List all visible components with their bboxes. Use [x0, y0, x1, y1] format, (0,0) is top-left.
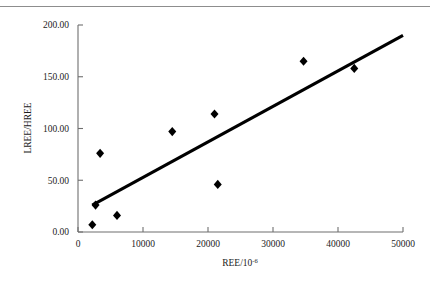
- y-tick-label: 0.00: [52, 227, 69, 237]
- x-axis-title-exponent: -6: [252, 257, 258, 264]
- x-tick-label: 40000: [326, 239, 350, 249]
- y-tick-label: 100.00: [43, 124, 69, 134]
- data-point-marker: [211, 109, 219, 118]
- y-axis-tick-labels: 0.0050.00100.00150.00200.00: [43, 20, 69, 237]
- y-tick-label: 50.00: [48, 176, 70, 186]
- chart-canvas: 0.0050.00100.00150.00200.00 010000200003…: [0, 0, 430, 285]
- y-axis-ticks: [78, 25, 83, 232]
- scatter-chart-figure: 0.0050.00100.00150.00200.00 010000200003…: [0, 0, 430, 285]
- trend-line: [92, 35, 403, 205]
- trend-line-segment: [92, 35, 403, 205]
- y-axis-title: LREE/HREE: [23, 102, 33, 153]
- data-point-marker: [214, 180, 222, 189]
- data-point-marker: [88, 220, 96, 229]
- x-axis-ticks: [78, 227, 403, 232]
- axis-spines: [78, 25, 403, 232]
- x-axis-tick-labels: 01000020000300004000050000: [76, 239, 416, 249]
- y-tick-label: 200.00: [43, 20, 69, 30]
- data-point-marker: [113, 211, 121, 220]
- y-tick-label: 150.00: [43, 72, 69, 82]
- x-tick-label: 50000: [391, 239, 415, 249]
- x-tick-label: 20000: [196, 239, 220, 249]
- x-tick-label: 10000: [131, 239, 155, 249]
- x-tick-label: 30000: [261, 239, 285, 249]
- x-axis-title: REE/10-6: [222, 257, 258, 268]
- x-axis-title-base: REE/10: [222, 258, 252, 268]
- data-point-marker: [168, 127, 176, 136]
- x-tick-label: 0: [76, 239, 81, 249]
- data-point-marker: [300, 57, 308, 66]
- data-point-marker: [96, 149, 104, 158]
